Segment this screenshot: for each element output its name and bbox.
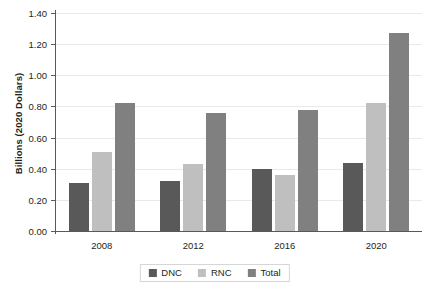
bar-dnc-2020: [343, 163, 363, 232]
y-axis-tick: [51, 138, 56, 139]
bar-total-2016: [298, 110, 318, 231]
x-axis-line: [55, 231, 422, 232]
y-axis-tick: [51, 106, 56, 107]
y-axis-tick-label: 0.20: [29, 194, 48, 205]
y-axis-tick-label: 0.80: [29, 101, 48, 112]
legend-item-rnc[interactable]: RNC: [198, 268, 232, 278]
legend-label-rnc: RNC: [211, 268, 232, 278]
legend-label-total: Total: [261, 268, 281, 278]
bar-rnc-2016: [275, 175, 295, 231]
y-axis-tick: [51, 169, 56, 170]
bar-total-2008: [115, 103, 135, 231]
y-axis-tick-label: 0.40: [29, 163, 48, 174]
legend-swatch-rnc: [198, 269, 206, 277]
legend-label-dnc: DNC: [161, 268, 182, 278]
bar-group-2016: [252, 13, 318, 231]
legend-item-total[interactable]: Total: [248, 268, 281, 278]
y-axis-tick: [51, 231, 56, 232]
chart-legend: DNC RNC Total: [139, 264, 289, 282]
y-axis-tick: [51, 200, 56, 201]
bar-dnc-2016: [252, 169, 272, 231]
y-axis-title: Billions (2020 Dollars): [13, 44, 24, 204]
bar-group-2020: [343, 13, 409, 231]
plot-area: 0.000.200.400.600.801.001.201.40: [56, 13, 422, 231]
bar-group-2012: [160, 13, 226, 231]
x-axis-tick-label-2008: 2008: [91, 240, 112, 251]
bar-chart-figure: Billions (2020 Dollars) 0.000.200.400.60…: [0, 0, 429, 292]
x-axis-tick-label-2020: 2020: [366, 240, 387, 251]
x-axis-tick-label-2012: 2012: [183, 240, 204, 251]
y-axis-tick-label: 1.00: [29, 70, 48, 81]
bar-rnc-2008: [92, 152, 112, 231]
y-axis-tick: [51, 44, 56, 45]
y-axis-tick: [51, 75, 56, 76]
y-axis-tick-label: 0.60: [29, 132, 48, 143]
y-axis-tick-label: 1.40: [29, 8, 48, 19]
bar-total-2012: [206, 113, 226, 231]
legend-swatch-total: [248, 269, 256, 277]
y-axis-tick-label: 1.20: [29, 39, 48, 50]
legend-item-dnc[interactable]: DNC: [148, 268, 182, 278]
legend-swatch-dnc: [148, 269, 156, 277]
bar-dnc-2008: [69, 183, 89, 231]
bar-rnc-2012: [183, 164, 203, 231]
bar-dnc-2012: [160, 181, 180, 231]
bar-rnc-2020: [366, 103, 386, 231]
bar-group-2008: [69, 13, 135, 231]
bar-total-2020: [389, 33, 409, 231]
y-axis-tick-label: 0.00: [29, 226, 48, 237]
x-axis-tick-label-2016: 2016: [274, 240, 295, 251]
y-axis-tick: [51, 13, 56, 14]
